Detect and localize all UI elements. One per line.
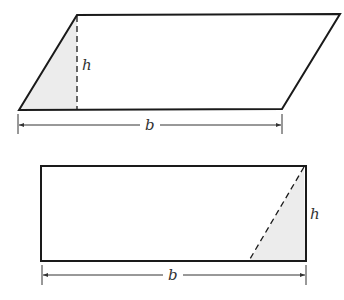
height-label: h [82,56,92,74]
rectangle-figure: h b [41,166,320,285]
height-label: h [310,205,320,223]
base-label: b [145,116,155,134]
area-diagram: h b h b [0,0,344,300]
parallelogram-figure: h b [18,14,340,134]
base-label: b [168,266,178,284]
